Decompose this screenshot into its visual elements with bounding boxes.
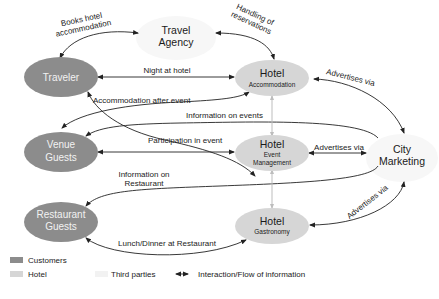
edge-advertises-accommodation [314,79,404,133]
node-hotel-accommodation-sub: Accommodation [249,81,296,88]
node-city-marketing-label-1: City [393,143,412,155]
node-traveler-label: Traveler [43,72,80,83]
edge-handling-reservations [216,33,274,59]
edge-information-on-events [86,122,378,138]
legend-label-interaction: Interaction/Flow of information [198,270,305,279]
label-advertises-accommodation: Advertises via [325,67,376,88]
legend-label-hotel: Hotel [28,270,47,279]
legend-swatch-hotel [10,271,23,277]
label-information-on-restaurant-1: Information on [118,170,169,179]
node-venue-guests-label-2: Guests [45,152,77,163]
legend-label-third-parties: Third parties [111,270,155,279]
hotel-stakeholder-diagram: Traveler Venue Guests Restaurant Guests … [0,0,439,299]
node-venue-guests-label-1: Venue [47,139,76,150]
label-information-on-restaurant-2: Restaurant [124,179,164,188]
node-restaurant-guests-label-1: Restaurant [37,209,86,220]
label-accommodation-after-event: Accommodation after event [93,96,191,105]
node-travel-agency-label-1: Travel [162,24,191,36]
legend: Customers Hotel Third parties Interactio… [10,256,305,279]
legend-label-customers: Customers [28,256,67,265]
label-lunch-dinner: Lunch/Dinner at Restaurant [118,239,217,248]
label-night-at-hotel: Night at hotel [143,66,190,75]
label-advertises-event: Advertises via [314,143,364,152]
node-city-marketing-label-2: Marketing [379,155,425,167]
node-travel-agency-label-2: Agency [158,36,194,48]
label-participation-in-event: Participation in event [148,136,223,145]
node-restaurant-guests-label-2: Guests [45,221,77,232]
legend-swatch-third-parties [95,271,108,277]
legend-swatch-customers [10,257,23,263]
node-hotel-gastronomy-title: Hotel [260,215,285,227]
node-hotel-event-sub-1: Event [264,151,281,158]
node-hotel-gastronomy-sub: Gastronomy [254,228,290,236]
node-hotel-event-title: Hotel [260,138,285,150]
edge-books-hotel [60,32,138,58]
node-hotel-event-sub-2: Management [253,159,291,167]
node-hotel-accommodation-title: Hotel [260,67,285,79]
label-information-on-events: Information on events [186,111,263,120]
